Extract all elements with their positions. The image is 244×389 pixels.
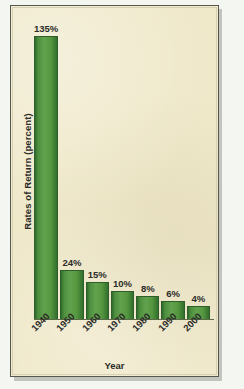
- plot-area: 135% 24% 15% 10% 8%: [34, 24, 210, 320]
- x-tick-slot: 1980: [136, 321, 159, 361]
- x-tick-slot: 2000: [187, 321, 210, 361]
- bar-value-label: 6%: [166, 289, 180, 299]
- x-tick-slot: 1970: [110, 321, 133, 361]
- chart-screenshot: Rates of Return (percent) 135% 24% 15% 1…: [0, 0, 244, 389]
- bar-series: 135% 24% 15% 10% 8%: [34, 24, 210, 320]
- bar-group-1980: 8%: [136, 24, 159, 320]
- bar-value-label: 10%: [113, 279, 132, 289]
- bar-group-1990: 6%: [161, 24, 184, 320]
- x-tick-slot: 1940: [34, 321, 57, 361]
- bar-value-label: 8%: [141, 284, 155, 294]
- x-axis-tick-labels: 1940 1950 1960 1970 1980 1990 2000: [34, 321, 210, 361]
- x-tick-slot: 1950: [59, 321, 82, 361]
- x-tick-slot: 1960: [85, 321, 108, 361]
- bar-value-label: 15%: [88, 270, 107, 280]
- x-tick-1940: 1940: [29, 311, 52, 334]
- bar-value-label: 24%: [62, 258, 81, 268]
- bar-group-2000: 4%: [187, 24, 210, 320]
- y-axis-label: Rates of Return (percent): [22, 97, 33, 247]
- bar-group-1960: 15%: [86, 24, 109, 320]
- bar-1950[interactable]: [60, 270, 83, 320]
- bar-group-1970: 10%: [111, 24, 134, 320]
- chart-panel: Rates of Return (percent) 135% 24% 15% 1…: [10, 5, 219, 377]
- bar-1940[interactable]: [34, 36, 58, 320]
- bar-group-1940: 135%: [34, 24, 58, 320]
- x-axis-label: Year: [11, 360, 218, 371]
- bar-value-label: 4%: [191, 294, 205, 304]
- x-tick-slot: 1990: [161, 321, 184, 361]
- bar-value-label: 135%: [34, 24, 58, 34]
- bar-group-1950: 24%: [60, 24, 83, 320]
